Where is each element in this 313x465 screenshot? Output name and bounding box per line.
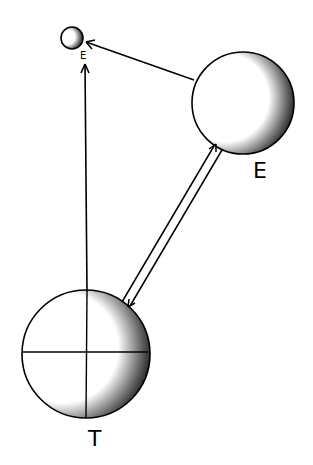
label-t: T — [88, 426, 101, 451]
diagram-canvas — [0, 0, 313, 465]
arrow-t-to-small — [81, 64, 89, 292]
label-small-mark: E — [80, 50, 86, 61]
t-vertical-axis — [86, 292, 87, 418]
small-body — [61, 27, 83, 49]
body-t — [22, 290, 150, 418]
arrow-e-to-small — [86, 40, 194, 80]
label-e: E — [253, 158, 267, 183]
double-line-t-e — [122, 144, 222, 307]
body-e — [192, 52, 294, 154]
